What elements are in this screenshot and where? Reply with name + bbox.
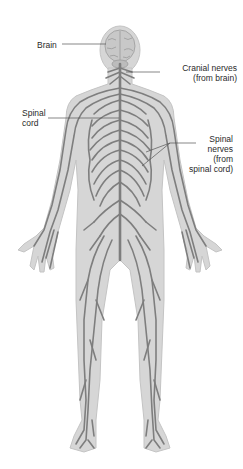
label-spinal-cord-line1: Spinal bbox=[22, 108, 46, 118]
label-brain-text: Brain bbox=[37, 40, 57, 50]
label-spinal-nerves-line3: (from bbox=[189, 154, 233, 164]
label-spinal-nerves-line1: Spinal bbox=[189, 134, 233, 144]
label-spinal-cord-line2: cord bbox=[22, 118, 46, 128]
label-cranial-nerves-line1: Cranial nerves bbox=[182, 63, 237, 73]
label-cranial-nerves: Cranial nerves (from brain) bbox=[182, 63, 237, 83]
nerve-network bbox=[34, 64, 206, 448]
label-cranial-nerves-line2: (from brain) bbox=[182, 73, 237, 83]
label-spinal-nerves-line2: nerves bbox=[189, 144, 233, 154]
label-brain: Brain bbox=[37, 40, 57, 50]
label-spinal-nerves-line4: spinal cord) bbox=[189, 164, 233, 174]
label-spinal-nerves: Spinal nerves (from spinal cord) bbox=[189, 134, 233, 174]
label-spinal-cord: Spinal cord bbox=[22, 108, 46, 128]
